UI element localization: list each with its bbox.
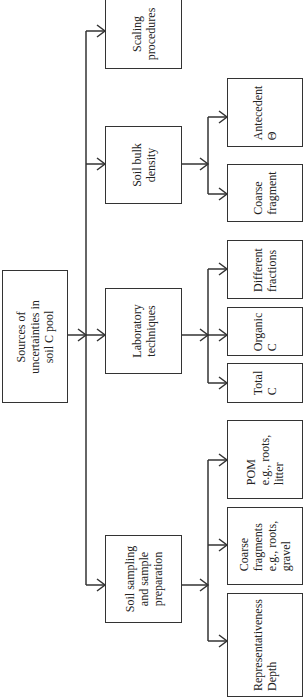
leaf-label: Total C [251, 371, 279, 396]
leaf-antecedent-theta: Antecedent Θ [227, 78, 303, 147]
leaf-label: Antecedent Θ [251, 85, 279, 140]
leaf-pom: POM e.g., roots, litter [227, 420, 303, 499]
leaf-label: Different fractions [251, 248, 279, 292]
category-label: Laboratory techniques [130, 304, 158, 357]
leaf-different-fractions: Different fractions [227, 240, 303, 299]
leaf-coarse-fragment: Coarse fragment [227, 164, 303, 222]
leaf-total-c: Total C [227, 363, 303, 403]
root-label: Sources of uncertainties in soil C pool [14, 300, 56, 374]
root-node: Sources of uncertainties in soil C pool [2, 270, 68, 403]
category-label: Soil bulk density [130, 143, 158, 187]
category-laboratory-techniques: Laboratory techniques [105, 288, 182, 374]
leaf-label: POM e.g., roots, litter [244, 434, 286, 484]
leaf-label: Coarse fragments e.g., roots, gravel [237, 521, 293, 571]
leaf-label: Representativeness Depth [251, 599, 279, 691]
leaf-coarse-fragments: Coarse fragments e.g., roots, gravel [227, 507, 303, 585]
leaf-organic-c: Organic C [227, 307, 303, 356]
category-soil-bulk-density: Soil bulk density [105, 126, 182, 204]
category-label: Soil sampling and sample preparation [123, 546, 165, 612]
leaf-label: Organic C [251, 312, 279, 350]
leaf-label: Coarse fragment [251, 171, 279, 214]
category-soil-sampling: Soil sampling and sample preparation [105, 535, 182, 623]
category-scaling-procedures: Scaling procedures [105, 0, 182, 69]
category-label: Scaling procedures [130, 7, 158, 60]
leaf-representativeness-depth: Representativeness Depth [227, 593, 303, 697]
